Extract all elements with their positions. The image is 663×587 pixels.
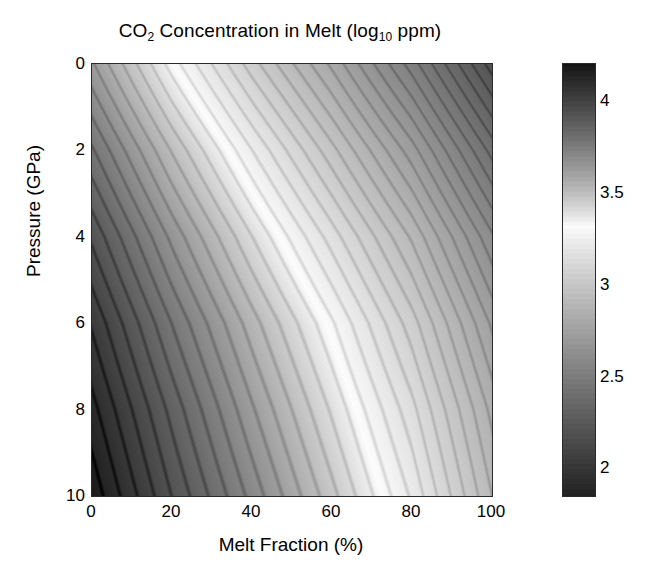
colorbar-tick-label: 3	[600, 276, 652, 293]
x-tick-label: 60	[301, 503, 361, 520]
colorbar	[562, 63, 596, 497]
y-tick-label: 2	[49, 141, 85, 158]
colorbar-tick-label: 2	[600, 459, 652, 476]
title-middle: Concentration in Melt (log	[154, 20, 378, 41]
colorbar-tick-label: 2.5	[600, 368, 652, 385]
y-axis-ticks: 0246810	[42, 63, 85, 495]
x-tick-label: 80	[381, 503, 441, 520]
title-tail: ppm)	[392, 20, 441, 41]
colorbar-ticks: 43.532.52	[600, 63, 660, 495]
y-tick-label: 4	[49, 228, 85, 245]
x-tick-label: 40	[221, 503, 281, 520]
y-tick-label: 6	[49, 314, 85, 331]
figure-root: CO2 Concentration in Melt (log10 ppm) 02…	[0, 0, 663, 587]
x-tick-label: 20	[141, 503, 201, 520]
chart-title: CO2 Concentration in Melt (log10 ppm)	[0, 20, 560, 42]
y-tick-label: 0	[49, 55, 85, 72]
colorbar-tick-label: 4	[600, 92, 652, 109]
y-axis-label: Pressure (GPa)	[23, 101, 45, 321]
x-axis-ticks: 020406080100	[91, 503, 491, 527]
x-tick-label: 100	[461, 503, 521, 520]
x-axis-label: Melt Fraction (%)	[91, 534, 491, 556]
x-tick-label: 0	[61, 503, 121, 520]
colorbar-canvas	[563, 64, 595, 496]
heatmap-canvas	[92, 64, 492, 496]
title-subscript-10: 10	[379, 30, 393, 44]
y-tick-label: 8	[49, 401, 85, 418]
title-lead: CO	[119, 20, 148, 41]
y-tick-label: 10	[49, 487, 85, 504]
heatmap-plot-area	[91, 63, 493, 497]
colorbar-tick-label: 3.5	[600, 184, 652, 201]
title-subscript-2: 2	[147, 30, 154, 44]
